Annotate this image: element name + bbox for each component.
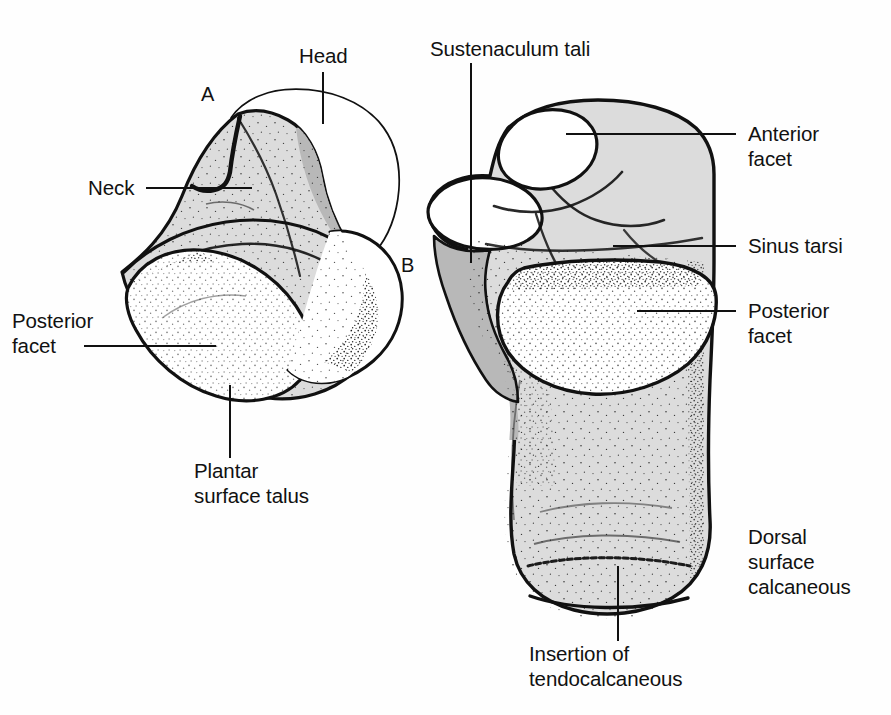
label-plantar-surface-talus-line2: surface talus <box>194 483 309 508</box>
leader-insertion-tendocalcaneous <box>617 566 619 641</box>
label-plantar-surface-talus: Plantar surface talus <box>194 458 309 508</box>
leader-head <box>322 72 324 124</box>
label-insertion-line1: Insertion of <box>529 641 683 666</box>
leader-plantar-surface-talus <box>229 385 231 458</box>
label-dorsal-surface-line3: calcaneous <box>748 574 851 599</box>
label-anterior-facet-line1: Anterior <box>748 121 819 146</box>
label-posterior-facet-calcaneus-line2: facet <box>748 323 829 348</box>
label-posterior-facet-talus-line2: facet <box>12 333 93 358</box>
leader-posterior-facet-talus <box>84 345 216 347</box>
leader-anterior-facet <box>566 133 736 135</box>
label-posterior-facet-calcaneus-line1: Posterior <box>748 298 829 323</box>
label-dorsal-surface-line1: Dorsal <box>748 524 851 549</box>
talus-illustration <box>120 90 412 415</box>
bone-illustration-svg <box>0 0 891 715</box>
label-insertion-tendocalcaneous: Insertion of tendocalcaneous <box>529 641 683 691</box>
label-posterior-facet-talus: Posterior facet <box>12 308 93 358</box>
label-insertion-line2: tendocalcaneous <box>529 666 683 691</box>
label-anterior-facet-line2: facet <box>748 146 819 171</box>
label-sustenaculum-tali: Sustenaculum tali <box>430 36 590 61</box>
leader-neck <box>146 187 252 189</box>
label-posterior-facet-talus-line1: Posterior <box>12 308 93 333</box>
label-plantar-surface-talus-line1: Plantar <box>194 458 309 483</box>
label-head: Head <box>299 43 348 68</box>
leader-posterior-facet-calcaneus <box>637 310 736 312</box>
leader-sustenaculum-tali <box>470 63 472 263</box>
label-dorsal-surface-line2: surface <box>748 549 851 574</box>
label-dorsal-surface-calcaneous: Dorsal surface calcaneous <box>748 524 851 599</box>
panel-letter-a: A <box>201 84 214 104</box>
label-neck: Neck <box>88 175 134 200</box>
leader-sinus-tarsi <box>613 245 736 247</box>
label-anterior-facet: Anterior facet <box>748 121 819 171</box>
calcaneus-illustration <box>428 100 726 630</box>
label-sinus-tarsi: Sinus tarsi <box>748 233 843 258</box>
anatomy-figure: A B Head Neck Posterior facet Plantar su… <box>0 0 891 715</box>
label-posterior-facet-calcaneus: Posterior facet <box>748 298 829 348</box>
panel-letter-b: B <box>401 255 414 275</box>
